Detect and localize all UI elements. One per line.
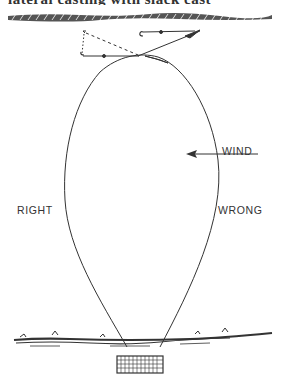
wind-label: WIND (222, 145, 252, 157)
far-bank-band (8, 13, 272, 22)
wrong-label: WRONG (218, 204, 262, 216)
casting-diagram (0, 0, 286, 387)
fly-and-hook-positions (81, 30, 200, 63)
teardrop-line-loop (65, 55, 219, 347)
right-label: RIGHT (17, 204, 53, 216)
fishing-platform (117, 356, 163, 373)
near-bank (14, 328, 272, 346)
